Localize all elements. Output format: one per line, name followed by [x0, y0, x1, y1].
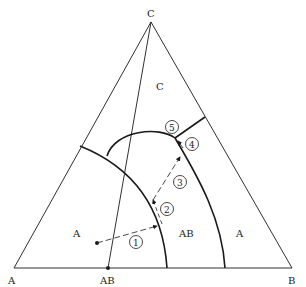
- triangle-outline: [14, 22, 292, 268]
- step-5: 5: [166, 121, 179, 134]
- vertex-label-c: C: [147, 8, 155, 19]
- ternary-diagram: C A B AB C A AB A 1 2 3 4 5: [0, 0, 306, 287]
- path-segment-3: [153, 157, 180, 200]
- region-label-a-left: A: [72, 228, 81, 239]
- step-4: 4: [186, 138, 199, 151]
- boundary-c-right-a: [175, 117, 205, 138]
- svg-text:4: 4: [189, 140, 195, 150]
- ab-point: [106, 266, 110, 270]
- path-segment-1: [97, 226, 157, 243]
- step-3: 3: [174, 176, 187, 189]
- svg-text:3: 3: [177, 178, 183, 188]
- compound-label-ab: AB: [99, 275, 115, 286]
- vertex-label-a: A: [7, 275, 16, 286]
- svg-text:2: 2: [164, 205, 170, 215]
- svg-text:1: 1: [133, 238, 139, 248]
- svg-text:5: 5: [169, 123, 175, 133]
- boundary-dome: [107, 132, 175, 156]
- region-label-a-right: A: [235, 228, 244, 239]
- boundary-ab-right-a: [175, 138, 225, 268]
- region-label-ab: AB: [178, 228, 194, 239]
- vertex-label-b: B: [288, 275, 295, 286]
- boundary-a-ab: [80, 146, 167, 268]
- step-1: 1: [130, 236, 143, 249]
- step-2: 2: [161, 203, 174, 216]
- region-label-c: C: [156, 81, 164, 92]
